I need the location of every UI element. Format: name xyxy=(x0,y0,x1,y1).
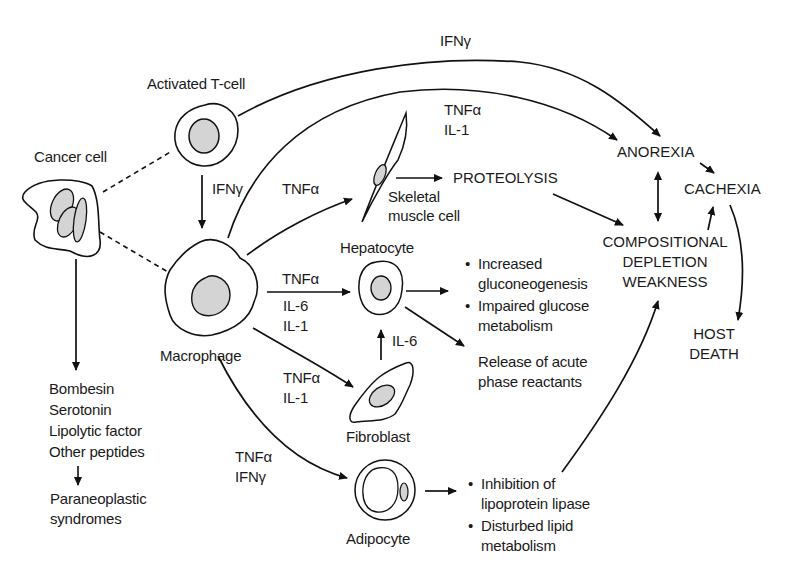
outcome-host-death: HOST DEATH xyxy=(684,324,744,364)
label-adipocyte: Adipocyte xyxy=(346,528,410,549)
adipocyte-effect-lipid: Disturbed lipid metabolism xyxy=(481,516,573,556)
anorexia-cachexia-arrow xyxy=(700,163,714,173)
macrophage-muscle-arrow xyxy=(247,199,352,255)
proteolysis-compositional-arrow xyxy=(553,194,623,225)
label-cancer-cell: Cancer cell xyxy=(34,146,107,167)
cachexia-death-arrow xyxy=(730,205,743,320)
cancer-macrophage-link xyxy=(100,232,168,272)
adipocyte-effect-lipase: Inhibition of lipoprotein lipase xyxy=(481,474,590,514)
mediator-macrophage-anorexia: TNFα IL-1 xyxy=(444,100,481,140)
label-macrophage: Macrophage xyxy=(160,345,241,366)
label-activated-t-cell: Activated T-cell xyxy=(147,73,245,94)
mediator-tcell-anorexia: IFNγ xyxy=(440,30,471,51)
mediator-macrophage-fibroblast: TNFα IL-1 xyxy=(283,368,320,408)
outcome-anorexia: ANOREXIA xyxy=(617,141,695,162)
outcome-acute-phase: Release of acute phase reactants xyxy=(478,352,587,392)
adipocyte-icon xyxy=(355,460,415,520)
activated-t-cell-icon xyxy=(175,104,238,166)
label-skeletal-muscle-cell: Skeletal muscle cell xyxy=(388,187,460,225)
hepatic-effect-glucose: Impaired glucose metabolism xyxy=(478,296,589,336)
cancer-cell-icon xyxy=(23,180,101,256)
fibroblast-icon xyxy=(350,363,413,423)
mediator-macrophage-hepatocyte-extra: IL-6 IL-1 xyxy=(283,296,308,336)
macrophage-icon xyxy=(165,240,257,336)
cancer-products-list: Bombesin Serotonin Lipolytic factor Othe… xyxy=(49,378,145,462)
mediator-tcell-macrophage: IFNγ xyxy=(212,178,243,199)
outcome-cachexia: CACHEXIA xyxy=(684,178,761,199)
outcome-proteolysis: PROTEOLYSIS xyxy=(453,167,558,188)
compositional-cachexia-arrow xyxy=(708,207,713,230)
label-fibroblast: Fibroblast xyxy=(346,426,410,447)
hepatocyte-icon xyxy=(359,261,403,314)
label-hepatocyte: Hepatocyte xyxy=(340,237,414,258)
mediator-macrophage-adipocyte: TNFα IFNγ xyxy=(235,447,272,487)
outcome-compositional-depletion: COMPOSITIONAL DEPLETION WEAKNESS xyxy=(600,232,730,292)
cancer-tcell-link xyxy=(103,151,172,192)
mediator-macrophage-hepatocyte: TNFα xyxy=(282,268,319,289)
mediator-macrophage-muscle: TNFα xyxy=(282,178,319,199)
outcome-paraneoplastic: Paraneoplastic syndromes xyxy=(50,489,146,529)
hepatic-effect-gluconeogenesis: Increased gluconeogenesis xyxy=(478,254,588,294)
mediator-fibroblast-hepatocyte: IL-6 xyxy=(392,330,417,351)
